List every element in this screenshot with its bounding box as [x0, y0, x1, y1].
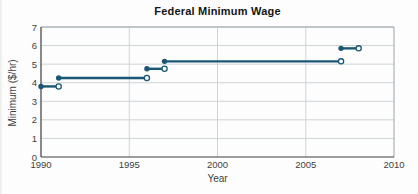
x-tick-label: 2005 — [295, 159, 316, 170]
minimum-wage-figure: Federal Minimum Wage Minimum ($/hr) Year… — [0, 0, 418, 194]
y-tick-label: 7 — [32, 22, 37, 33]
y-tick-label: 1 — [32, 133, 37, 144]
closed-endpoint-marker — [162, 59, 167, 64]
y-tick-label: 4 — [32, 77, 37, 88]
closed-endpoint-marker — [144, 66, 149, 71]
closed-endpoint-marker — [38, 84, 43, 89]
y-tick-label: 3 — [32, 96, 37, 107]
x-tick-label: 2000 — [207, 159, 228, 170]
open-endpoint-marker — [144, 75, 149, 80]
y-tick-label: 2 — [32, 114, 37, 125]
x-tick-label: 2010 — [383, 159, 404, 170]
x-tick-label: 1995 — [119, 159, 140, 170]
open-endpoint-marker — [356, 46, 361, 51]
open-endpoint-marker — [162, 66, 167, 71]
closed-endpoint-marker — [338, 46, 343, 51]
chart-canvas: 0123456719901995200020052010 — [0, 0, 418, 194]
x-tick-label: 1990 — [30, 159, 51, 170]
open-endpoint-marker — [338, 59, 343, 64]
y-tick-label: 5 — [32, 59, 37, 70]
y-tick-label: 6 — [32, 40, 37, 51]
open-endpoint-marker — [56, 84, 61, 89]
closed-endpoint-marker — [56, 75, 61, 80]
